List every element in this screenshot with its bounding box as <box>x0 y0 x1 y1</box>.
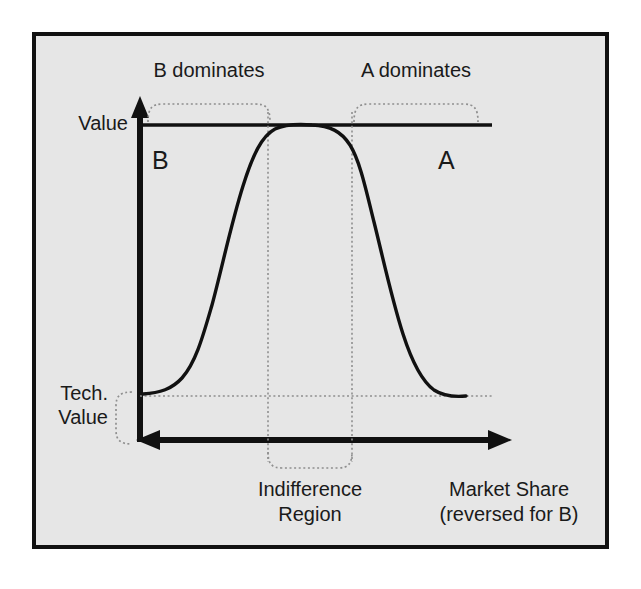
x-axis-label-line2: (reversed for B) <box>429 503 589 527</box>
tech-value-label-line2: Value <box>28 406 108 430</box>
b-dominates-label: B dominates <box>129 59 289 83</box>
tech-value-label-line1: Tech. <box>28 382 108 406</box>
indifference-region-label-line2: Region <box>230 503 390 527</box>
indifference-region-label-line1: Indifference <box>230 478 390 502</box>
figure-root: Value Tech. Value B dominates A dominate… <box>0 0 641 589</box>
x-axis-label-line1: Market Share <box>429 478 589 502</box>
y-axis-label: Value <box>44 112 128 136</box>
a-dominates-label: A dominates <box>336 59 496 83</box>
chart-panel <box>32 32 609 549</box>
region-b-label: B <box>152 146 169 176</box>
region-a-label: A <box>438 146 455 176</box>
